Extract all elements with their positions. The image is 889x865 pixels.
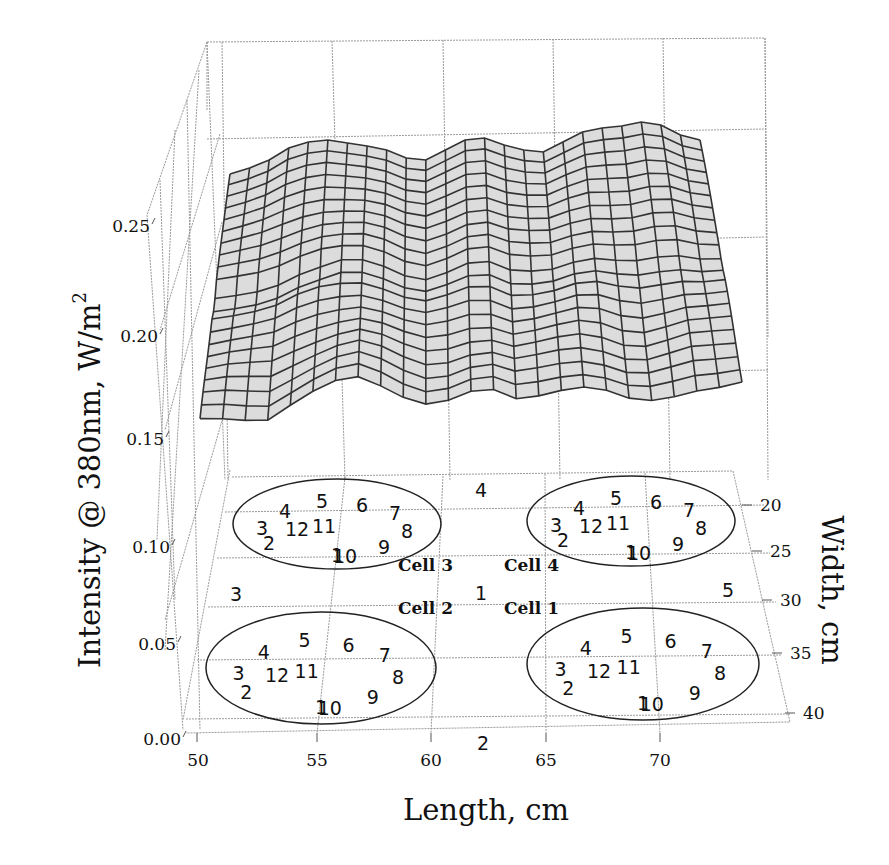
sensor-point-label: 6 xyxy=(356,494,368,516)
sensor-point-label: 7 xyxy=(701,640,713,662)
sensor-point-label: 3 xyxy=(256,517,268,539)
sensor-point-label: 3 xyxy=(554,658,566,680)
center-point-label: 1 xyxy=(475,582,487,604)
z-tick-label: 0.20 xyxy=(120,326,158,346)
y-axis-label: Width, cm xyxy=(815,515,849,665)
sensor-point-label: 7 xyxy=(379,644,391,666)
y-tick-label: 40 xyxy=(803,703,825,723)
sensor-point-label: 6 xyxy=(650,491,662,513)
sensor-point-label: 9 xyxy=(689,682,701,704)
sensor-point-label: 10 xyxy=(627,542,651,564)
sensor-point-label: 10 xyxy=(333,545,357,567)
x-axis-label: Length, cm xyxy=(403,793,569,827)
sensor-point-label: 8 xyxy=(714,662,726,684)
sensor-point-label: 5 xyxy=(298,629,310,651)
sensor-point-numbers: 1234567891011121234567891011121234567891… xyxy=(230,479,734,754)
z-tick-label: 0.15 xyxy=(126,429,164,449)
sensor-point-label: 11 xyxy=(312,515,336,537)
y-tick-label: 20 xyxy=(760,495,782,515)
z-tick-label: 0.05 xyxy=(138,634,176,654)
sensor-point-label: 9 xyxy=(378,536,390,558)
sensor-point-label: 11 xyxy=(295,660,319,682)
surface-plot-figure: 1234567891011121234567891011121234567891… xyxy=(0,0,889,865)
center-point-label: 3 xyxy=(230,583,242,605)
x-tick-label: 65 xyxy=(535,750,557,770)
sensor-point-label: 2 xyxy=(562,677,574,699)
sensor-point-label: 6 xyxy=(342,634,354,656)
z-axis-label-text: Intensity @ 380nm, W/m xyxy=(73,304,107,668)
surface-plot: 1234567891011121234567891011121234567891… xyxy=(0,0,889,865)
sensor-point-label: 4 xyxy=(258,641,270,663)
sensor-point-label: 7 xyxy=(683,499,695,521)
sensor-point-label: 2 xyxy=(240,681,252,703)
center-point-label: 5 xyxy=(722,579,734,601)
x-tick-label: 55 xyxy=(306,750,328,770)
sensor-point-label: 12 xyxy=(265,664,289,686)
intensity-surface xyxy=(200,122,742,420)
cell2-label: Cell 2 xyxy=(398,598,453,618)
sensor-point-label: 8 xyxy=(695,517,707,539)
z-tick-label: 0.25 xyxy=(112,216,150,236)
sensor-point-label: 10 xyxy=(318,697,342,719)
sensor-point-label: 12 xyxy=(587,660,611,682)
y-axis-ticks: 2025303540 xyxy=(742,495,825,723)
z-axis-label-group: Intensity @ 380nm, W/m2 xyxy=(69,292,107,668)
sensor-point-label: 5 xyxy=(316,490,328,512)
z-tick-label: 0.00 xyxy=(143,729,181,749)
sensor-point-label: 12 xyxy=(285,518,309,540)
y-tick-label: 25 xyxy=(770,541,792,561)
sensor-point-label: 6 xyxy=(664,630,676,652)
z-axis-label: Intensity @ 380nm, W/m2 xyxy=(69,292,107,668)
x-tick-label: 60 xyxy=(420,750,442,770)
sensor-point-label: 3 xyxy=(232,662,244,684)
z-axis-label-superscript: 2 xyxy=(69,292,90,303)
x-axis-ticks: 5055606570 xyxy=(187,733,671,770)
sensor-point-label: 12 xyxy=(579,515,603,537)
sensor-point-label: 10 xyxy=(640,693,664,715)
sensor-point-label: 9 xyxy=(672,533,684,555)
sensor-point-label: 8 xyxy=(392,666,404,688)
center-point-label: 2 xyxy=(477,732,489,754)
sensor-point-label: 8 xyxy=(401,520,413,542)
sensor-point-label: 9 xyxy=(367,686,379,708)
sensor-point-label: 4 xyxy=(580,637,592,659)
sensor-point-label: 5 xyxy=(610,487,622,509)
y-tick-label: 35 xyxy=(790,643,812,663)
cell3-label: Cell 3 xyxy=(398,555,453,575)
x-tick-label: 50 xyxy=(187,750,209,770)
center-point-label: 4 xyxy=(475,479,487,501)
sensor-point-label: 3 xyxy=(550,514,562,536)
sensor-point-label: 7 xyxy=(389,502,401,524)
z-axis-ticks: 0.000.050.100.150.200.25 xyxy=(112,216,186,749)
y-tick-label: 30 xyxy=(780,590,802,610)
cell1-label: Cell 1 xyxy=(504,598,559,618)
z-tick-label: 0.10 xyxy=(132,537,170,557)
sensor-point-label: 11 xyxy=(606,512,630,534)
sensor-point-label: 11 xyxy=(617,656,641,678)
cell4-label: Cell 4 xyxy=(504,555,559,575)
x-tick-label: 70 xyxy=(649,750,671,770)
sensor-point-label: 5 xyxy=(620,625,632,647)
